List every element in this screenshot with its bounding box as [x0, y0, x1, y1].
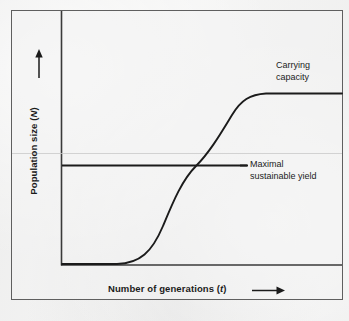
figure-container: Population size (N) Number of generation… — [0, 0, 349, 321]
y-axis-label-text: Population size (N) — [28, 107, 39, 194]
y-axis-label: Population size (N) — [22, 88, 44, 213]
carrying-capacity-line-1: Carrying — [276, 60, 310, 72]
carrying-capacity-annotation: Carrying capacity — [276, 60, 310, 83]
x-axis-label-prefix: Number of generations ( — [108, 283, 220, 294]
up-arrow-icon — [35, 49, 42, 78]
msy-line-1: Maximal — [250, 159, 317, 171]
x-axis-label: Number of generations (t) — [108, 283, 227, 294]
msy-annotation: Maximal sustainable yield — [250, 159, 317, 182]
y-axis-label-prefix: Population size ( — [28, 117, 39, 194]
y-axis-label-suffix: ) — [28, 107, 39, 110]
msy-line-2: sustainable yield — [250, 171, 317, 183]
carrying-capacity-line-2: capacity — [276, 72, 310, 84]
right-arrow-icon — [252, 287, 285, 295]
y-axis-label-variable: N — [28, 110, 39, 117]
x-axis-label-suffix: ) — [223, 283, 226, 294]
